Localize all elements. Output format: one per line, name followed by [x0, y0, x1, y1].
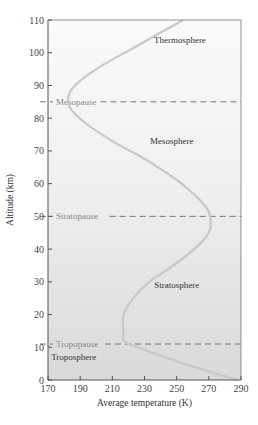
- x-tick-label: 250: [169, 383, 184, 394]
- y-tick-label: 110: [29, 15, 44, 26]
- x-tick-label: 230: [137, 383, 152, 394]
- x-tick-label: 170: [41, 383, 56, 394]
- layer-label: Stratosphere: [154, 280, 199, 290]
- y-tick-label: 20: [34, 309, 44, 320]
- atmosphere-temperature-chart: TropopauseStratopauseMesopause Troposphe…: [0, 0, 258, 425]
- y-axis-title: Altitude (km): [5, 174, 16, 226]
- y-tick-label: 30: [34, 276, 44, 287]
- y-tick-label: 90: [34, 80, 44, 91]
- x-tick-label: 270: [201, 383, 216, 394]
- layer-label: Troposphere: [51, 352, 96, 362]
- x-axis-title: Average temperature (K): [97, 398, 192, 409]
- y-tick-label: 50: [34, 211, 44, 222]
- y-tick-label: 80: [34, 113, 44, 124]
- reference-line-label: Stratopause: [56, 211, 98, 221]
- reference-line-label: Tropopause: [56, 339, 98, 349]
- y-tick-label: 60: [34, 178, 44, 189]
- x-tick-label: 190: [73, 383, 88, 394]
- y-tick-label: 10: [34, 342, 44, 353]
- layer-label: Thermosphere: [154, 35, 206, 45]
- x-tick-label: 210: [105, 383, 120, 394]
- x-tick-label: 290: [234, 383, 249, 394]
- y-tick-label: 40: [34, 244, 44, 255]
- reference-line-label: Mesopause: [56, 97, 97, 107]
- plot-area: [48, 20, 241, 380]
- y-tick-label: 100: [29, 47, 44, 58]
- layer-label: Mesosphere: [150, 136, 194, 146]
- y-tick-label: 70: [34, 145, 44, 156]
